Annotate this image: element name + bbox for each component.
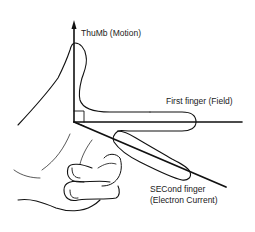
curled-finger-1 [68, 164, 111, 182]
first-finger-label: First finger (Field) [166, 96, 233, 106]
finger-nail-2 [70, 190, 78, 198]
palm-shade-3 [14, 170, 40, 178]
second-finger-axis-line [74, 122, 226, 187]
second-finger-label: SECond finger [150, 184, 205, 194]
finger-nail-1 [72, 168, 80, 178]
arrowhead-icon [72, 20, 77, 29]
palm-bottom-outline [18, 199, 100, 210]
second-finger-sublabel: (Electron Current) [150, 195, 218, 205]
finger-crease [98, 163, 116, 168]
right-angle-marker [74, 111, 84, 122]
palm-shade-1 [42, 134, 70, 170]
left-hand-rule-diagram: ThuMb (Motion) First finger (Field) SECo… [0, 0, 255, 232]
thumb-label: ThuMb (Motion) [81, 28, 141, 38]
palm-shade-2 [80, 140, 92, 164]
